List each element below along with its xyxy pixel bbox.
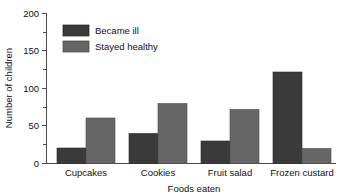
chart-legend: Became ill Stayed healthy: [63, 25, 158, 52]
x-axis-title: Foods eaten: [168, 183, 221, 194]
bar-cupcakes-stayed-healthy: [86, 118, 115, 164]
bar-frozen-custard-became-ill: [273, 72, 302, 164]
bar-chart: 200 150 100 50 0 Cupcakes Cooki: [0, 0, 338, 196]
bar-cookies-stayed-healthy: [158, 104, 187, 164]
legend-label-became-ill: Became ill: [95, 25, 139, 36]
bar-fruit-salad-became-ill: [201, 141, 230, 164]
y-tick-label: 200: [23, 8, 39, 19]
bar-fruit-salad-stayed-healthy: [230, 110, 259, 164]
bar-cupcakes-became-ill: [57, 148, 86, 164]
bar-group-fruit-salad: [201, 110, 259, 164]
bar-group-cupcakes: [57, 118, 115, 164]
y-axis-title: Number of children: [3, 48, 14, 128]
y-tick-label: 0: [34, 158, 39, 169]
y-tick-label: 150: [23, 45, 39, 56]
legend-label-stayed-healthy: Stayed healthy: [95, 41, 158, 52]
x-tick-label-fruit-salad: Fruit salad: [208, 167, 252, 178]
x-tick-label-frozen-custard: Frozen custard: [270, 167, 333, 178]
y-tick-label: 50: [28, 120, 39, 131]
x-axis-category-labels: Cupcakes Cookies Fruit salad Frozen cust…: [65, 167, 334, 178]
bar-group-cookies: [129, 104, 187, 164]
bar-frozen-custard-stayed-healthy: [302, 149, 331, 164]
y-axis-tick-labels: 200 150 100 50 0: [23, 8, 39, 169]
x-tick-label-cookies: Cookies: [141, 167, 176, 178]
y-tick-label: 100: [23, 83, 39, 94]
x-tick-label-cupcakes: Cupcakes: [65, 167, 107, 178]
y-axis-major-ticks: [42, 14, 47, 164]
bar-cookies-became-ill: [129, 134, 158, 164]
legend-swatch-became-ill: [63, 25, 89, 36]
bar-group-frozen-custard: [273, 72, 331, 164]
legend-swatch-stayed-healthy: [63, 41, 89, 52]
chart-canvas: 200 150 100 50 0 Cupcakes Cooki: [0, 0, 338, 196]
